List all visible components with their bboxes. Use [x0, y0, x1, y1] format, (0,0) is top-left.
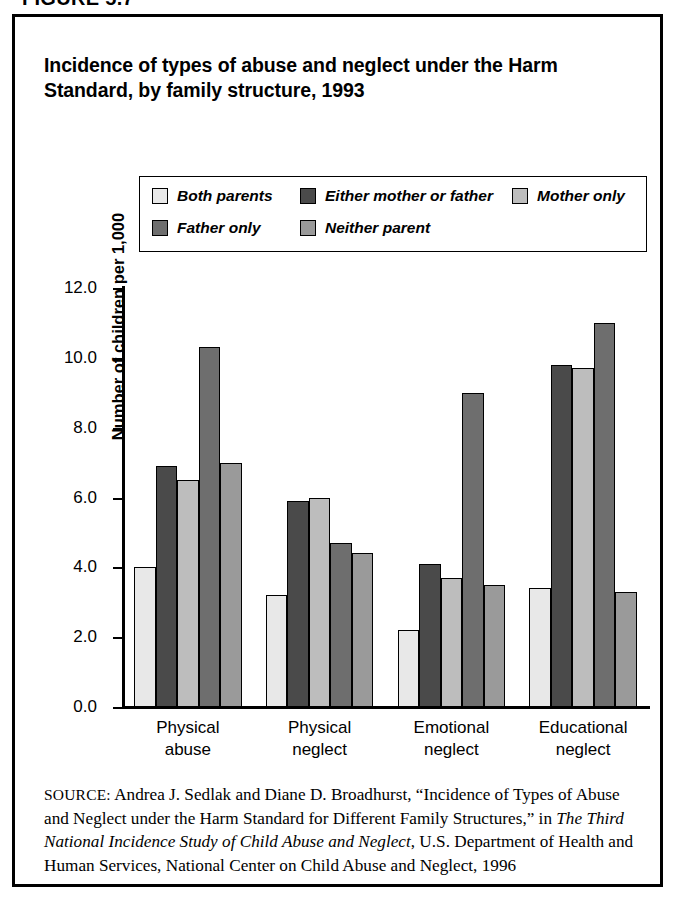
legend-label-mother-only: Mother only [537, 187, 625, 205]
bar[interactable] [134, 567, 156, 707]
bar[interactable] [156, 466, 178, 707]
bar[interactable] [462, 393, 484, 707]
figure-panel: Incidence of types of abuse and neglect … [12, 14, 663, 887]
legend-item-mother-only[interactable]: Mother only [512, 185, 625, 207]
bar[interactable] [352, 553, 374, 707]
chart-title: Incidence of types of abuse and neglect … [44, 53, 624, 103]
bar[interactable] [615, 592, 637, 707]
legend-item-either-mother-or-father[interactable]: Either mother or father [300, 185, 493, 207]
bar[interactable] [529, 588, 551, 707]
bar[interactable] [220, 463, 242, 707]
y-axis-tick-label: 10.0 [37, 348, 97, 368]
y-axis-tick-label: 4.0 [37, 557, 97, 577]
bar[interactable] [594, 323, 616, 707]
y-axis-tick-label: 8.0 [37, 418, 97, 438]
legend-swatch-father-only [152, 220, 168, 236]
figure-number-label: FIGURE 5.7 [22, 0, 134, 10]
y-axis-tick-label: 0.0 [37, 697, 97, 717]
legend-item-neither-parent[interactable]: Neither parent [300, 217, 430, 239]
source-note: SOURCE: Andrea J. Sedlak and Diane D. Br… [44, 783, 639, 877]
bar[interactable] [551, 365, 573, 707]
legend-row: Both parents Either mother or father Mot… [140, 185, 646, 215]
bar[interactable] [177, 480, 199, 707]
x-axis-category-line: Physical [254, 717, 386, 739]
legend-label-either-mother-or-father: Either mother or father [325, 187, 493, 205]
legend-swatch-mother-only [512, 188, 528, 204]
y-axis-tick-label: 6.0 [37, 488, 97, 508]
x-axis-category-line: Physical [122, 717, 254, 739]
bar[interactable] [484, 585, 506, 707]
bar[interactable] [572, 368, 594, 707]
source-text-part-1: Andrea J. Sedlak and Diane D. Broadhurst… [44, 785, 620, 828]
bar[interactable] [419, 564, 441, 707]
bar[interactable] [199, 347, 221, 707]
bar-group [529, 288, 637, 707]
x-axis-category-line: Educational [517, 717, 649, 739]
x-axis-category-line: neglect [254, 739, 386, 761]
legend-label-neither-parent: Neither parent [325, 219, 430, 237]
bar-group [398, 288, 506, 707]
bar[interactable] [441, 578, 463, 707]
legend-swatch-both-parents [152, 188, 168, 204]
legend-swatch-neither-parent [300, 220, 316, 236]
x-axis-category-line: abuse [122, 739, 254, 761]
y-axis-tick-label: 12.0 [37, 278, 97, 298]
x-axis-category-label: Physicalabuse [122, 717, 254, 761]
y-axis-tick-label: 2.0 [37, 627, 97, 647]
legend-swatch-either-mother-or-father [300, 188, 316, 204]
x-axis-category-line: Emotional [386, 717, 518, 739]
bar[interactable] [266, 595, 288, 707]
x-axis-category-line: neglect [386, 739, 518, 761]
y-axis-tick [113, 707, 123, 709]
legend-item-father-only[interactable]: Father only [152, 217, 261, 239]
legend-label-father-only: Father only [177, 219, 261, 237]
source-kicker: SOURCE: [44, 786, 111, 803]
chart-legend: Both parents Either mother or father Mot… [139, 176, 647, 252]
bar[interactable] [287, 501, 309, 707]
legend-row: Father only Neither parent [140, 217, 646, 247]
x-axis-category-line: neglect [517, 739, 649, 761]
bar[interactable] [398, 630, 420, 707]
bar[interactable] [309, 498, 331, 708]
bar[interactable] [330, 543, 352, 707]
x-axis-category-label: Physicalneglect [254, 717, 386, 761]
legend-label-both-parents: Both parents [177, 187, 273, 205]
plot-area [122, 288, 649, 707]
x-axis-category-label: Educationalneglect [517, 717, 649, 761]
bar-group [266, 288, 374, 707]
bar-group [134, 288, 242, 707]
legend-item-both-parents[interactable]: Both parents [152, 185, 273, 207]
x-axis-category-label: Emotionalneglect [386, 717, 518, 761]
